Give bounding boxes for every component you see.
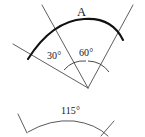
angle-label-60: 60° — [79, 48, 93, 58]
angle-marker-60 — [88, 61, 109, 72]
top-right-ray — [88, 5, 133, 88]
bottom-angle-diagram — [18, 114, 114, 136]
angle-label-30: 30° — [47, 51, 61, 61]
geometry-drawing — [0, 0, 145, 137]
top-bold-arc — [28, 19, 123, 59]
bottom-right-ray — [101, 121, 114, 136]
geometry-figure: A 30° 60° 115° — [0, 0, 145, 137]
angle-label-115: 115° — [61, 106, 80, 116]
vertex-label-a: A — [77, 6, 86, 19]
bottom-thin-arc — [28, 121, 108, 136]
bottom-left-ray — [18, 114, 27, 133]
top-angle-diagram — [13, 5, 133, 88]
